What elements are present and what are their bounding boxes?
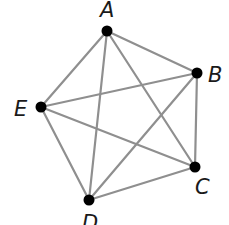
node-b: [192, 68, 203, 79]
edge-cd: [89, 167, 195, 200]
node-a: [102, 26, 113, 37]
complete-graph-k5: ABCDE: [0, 0, 229, 225]
edge-bc: [195, 73, 197, 167]
node-label-b: B: [208, 63, 222, 87]
node-e: [36, 102, 47, 113]
node-label-d: D: [82, 211, 98, 225]
node-d: [84, 195, 95, 206]
node-c: [190, 162, 201, 173]
node-label-c: C: [195, 175, 210, 199]
node-label-e: E: [14, 97, 28, 121]
node-label-a: A: [98, 0, 114, 22]
edges: [41, 31, 197, 200]
edge-de: [41, 107, 89, 200]
edge-ce: [41, 107, 195, 167]
edge-ad: [89, 31, 107, 200]
